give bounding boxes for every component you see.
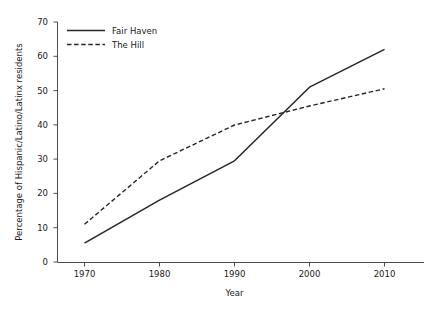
y-tick-label: 70	[37, 17, 48, 27]
y-tick-label: 50	[37, 86, 48, 96]
x-axis-title: Year	[225, 288, 245, 298]
chart-figure: 0 10 20 30 40 50 60 70 1970 1980 1990 20…	[0, 0, 442, 316]
y-tick-label: 20	[37, 188, 48, 198]
y-tick-label: 40	[37, 120, 48, 130]
x-tick-label: 1970	[74, 269, 96, 279]
y-axis-title: Percentage of Hispanic/Latino/Latinx res…	[14, 43, 24, 241]
line-chart: 0 10 20 30 40 50 60 70 1970 1980 1990 20…	[0, 0, 442, 316]
legend-label-fair-haven: Fair Haven	[112, 26, 157, 36]
x-tick-label: 2010	[374, 269, 396, 279]
y-tick-label: 30	[37, 154, 48, 164]
x-tick-label: 2000	[299, 269, 321, 279]
legend-label-the-hill: The Hill	[111, 40, 144, 50]
y-tick-label: 10	[37, 223, 48, 233]
y-tick-label: 60	[37, 51, 48, 61]
x-tick-label: 1980	[149, 269, 171, 279]
x-tick-label: 1990	[224, 269, 246, 279]
y-tick-label: 0	[43, 257, 48, 267]
